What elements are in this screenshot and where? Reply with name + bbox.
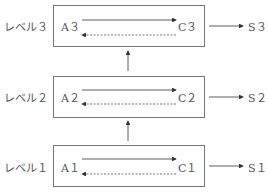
arrows-layer [0,0,268,195]
